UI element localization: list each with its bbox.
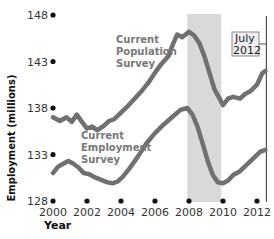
x-tick-label: 2002 xyxy=(73,206,101,219)
x-tick-label: 2012 xyxy=(243,206,271,219)
y-axis-title: Employment (millions) xyxy=(6,74,17,201)
july-2012-annotation: July 2012 xyxy=(232,32,267,57)
x-tick-dot xyxy=(152,198,157,203)
x-tick-dot xyxy=(254,198,259,203)
x-tick-dot xyxy=(186,198,191,203)
x-axis-title: Year xyxy=(43,219,72,232)
x-tick-dot xyxy=(84,198,89,203)
ces-label-line2: Employment xyxy=(81,142,152,153)
y-tick-dot xyxy=(50,105,55,110)
y-tick-label: 148 xyxy=(27,9,48,22)
ces-label-line3: Survey xyxy=(81,154,121,165)
x-tick-dot xyxy=(220,198,225,203)
cps-label-line3: Survey xyxy=(116,58,156,69)
recession-shaded-region xyxy=(187,14,221,202)
y-tick-label: 133 xyxy=(27,149,48,162)
x-tick-label: 2006 xyxy=(141,206,169,219)
employment-line-chart: 128133138143148 200020022004200620082010… xyxy=(0,0,274,239)
y-tick-dot xyxy=(50,59,55,64)
x-tick-label: 2004 xyxy=(107,206,135,219)
annotation-year: 2012 xyxy=(233,44,261,57)
y-tick-dot xyxy=(50,12,55,17)
y-tick-label: 138 xyxy=(27,102,48,115)
ces-label-line1: Current xyxy=(81,130,124,141)
y-tick-label: 143 xyxy=(27,56,48,69)
x-tick-dot xyxy=(118,198,123,203)
y-tick-dot xyxy=(50,198,55,203)
x-tick-label: 2008 xyxy=(175,206,203,219)
x-tick-label: 2000 xyxy=(39,206,67,219)
cps-label-line1: Current xyxy=(116,34,159,45)
x-tick-label: 2010 xyxy=(209,206,237,219)
cps-label-line2: Population xyxy=(116,46,177,57)
x-axis-ticks: 2000200220042006200820102012 xyxy=(39,198,271,219)
y-axis-ticks: 128133138143148 xyxy=(27,9,56,208)
y-tick-dot xyxy=(50,152,55,157)
